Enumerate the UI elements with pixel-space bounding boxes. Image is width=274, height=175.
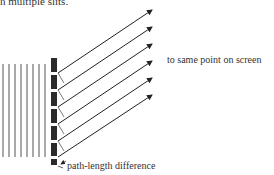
grating-diagram xyxy=(0,0,274,175)
slit-barrier xyxy=(51,58,57,165)
label-same-point: to same point on screen xyxy=(167,54,261,65)
pointer-arrow xyxy=(58,161,66,168)
label-path-difference: path-length difference xyxy=(67,160,155,171)
diffracted-rays xyxy=(58,10,152,157)
incoming-wavefronts xyxy=(3,64,45,157)
